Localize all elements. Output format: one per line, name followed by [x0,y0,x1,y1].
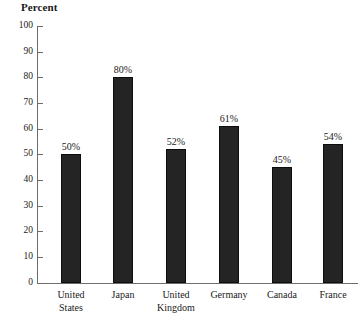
bar-united-states [61,154,81,283]
y-tick-label: 30 [0,201,33,211]
bar-value-label: 50% [45,141,97,152]
y-tick-mark [38,206,43,207]
y-tick-mark [38,154,43,155]
y-axis-title: Percent [21,1,58,14]
x-axis-line [37,283,358,284]
y-tick-mark [38,77,43,78]
y-tick-mark [38,26,43,27]
bar-value-label: 52% [150,136,202,147]
bar-value-label: 61% [203,113,255,124]
y-axis-line [37,26,38,284]
y-tick-label: 0 [0,278,33,288]
y-tick-mark [38,231,43,232]
y-tick-mark [38,103,43,104]
bar-chart: Percent 100 90 80 70 60 50 40 30 20 10 0… [0,0,363,321]
y-tick-label: 90 [0,47,33,57]
y-tick-mark [38,52,43,53]
y-tick-mark [38,180,43,181]
bar-value-label: 45% [256,154,308,165]
bar-united-kingdom [166,149,186,283]
category-label-line: States [39,302,103,315]
category-label-france: France [301,289,363,302]
y-tick-label: 50 [0,149,33,159]
y-tick-label: 80 [0,72,33,82]
bar-value-label: 80% [97,64,149,75]
bar-japan [113,77,133,283]
category-label-line: Kingdom [144,302,208,315]
y-tick-label: 60 [0,124,33,134]
bar-value-label: 54% [307,131,359,142]
bar-france [323,144,343,283]
bar-germany [219,126,239,283]
y-tick-label: 10 [0,252,33,262]
y-tick-mark [38,129,43,130]
y-tick-label: 100 [0,21,33,31]
y-tick-mark [38,283,43,284]
category-label-line: France [301,289,363,302]
bar-canada [272,167,292,283]
y-tick-label: 40 [0,175,33,185]
y-tick-label: 20 [0,226,33,236]
y-tick-mark [38,257,43,258]
y-tick-label: 70 [0,98,33,108]
